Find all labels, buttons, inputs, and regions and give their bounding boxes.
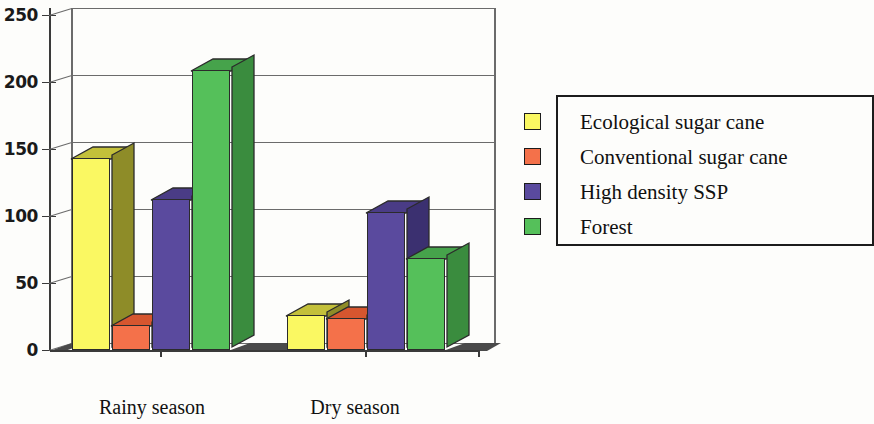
legend-swatch-column <box>524 95 554 246</box>
plot-right-edge <box>494 8 496 343</box>
x-axis-line <box>50 350 480 352</box>
x-tick-end <box>478 350 480 357</box>
bar-rainy-conventional-sugar-cane[interactable] <box>112 325 150 350</box>
legend-swatch-forest <box>524 218 541 235</box>
bar-front-face <box>367 212 405 350</box>
x-tick-dry <box>365 350 367 357</box>
depth-connector-150 <box>49 142 71 150</box>
bar-rainy-high-density-ssp[interactable] <box>152 199 190 350</box>
x-axis-label-dry-season: Dry season <box>310 396 399 419</box>
bar-rainy-forest[interactable] <box>192 70 230 350</box>
plot-area: 250 200 150 100 50 0 <box>0 0 520 424</box>
legend-labels: Ecological sugar cane Conventional sugar… <box>556 95 874 246</box>
bar-front-face <box>287 315 325 350</box>
depth-connector-250 <box>49 8 71 16</box>
legend-label-conventional-sugar-cane: Conventional sugar cane <box>580 145 788 170</box>
y-tick-label-0: 0 <box>27 340 38 360</box>
legend-label-forest: Forest <box>580 215 633 240</box>
y-tick-label-50: 50 <box>15 273 38 293</box>
bar-front-face <box>327 318 365 350</box>
legend-swatch-high-density-ssp <box>524 183 541 200</box>
y-tick-label-200: 200 <box>4 72 38 92</box>
y-tick-label-150: 150 <box>4 139 38 159</box>
y-axis-labels: 250 200 150 100 50 0 <box>0 0 38 424</box>
legend-swatch-conventional-sugar-cane <box>524 148 541 165</box>
bar-front-face <box>112 325 150 350</box>
x-tick-rainy <box>160 350 162 357</box>
legend-label-ecological-sugar-cane: Ecological sugar cane <box>580 110 764 135</box>
legend-swatch-ecological-sugar-cane <box>524 113 541 130</box>
gridline-250 <box>71 8 496 9</box>
bar-front-face <box>192 70 230 350</box>
legend-label-high-density-ssp: High density SSP <box>580 180 728 205</box>
y-tick-label-250: 250 <box>4 5 38 25</box>
bar-front-face <box>407 258 445 350</box>
x-axis-label-rainy-season: Rainy season <box>99 396 205 419</box>
depth-connector-50 <box>49 276 71 284</box>
bar-front-face <box>72 158 110 350</box>
depth-connector-100 <box>49 209 71 217</box>
bar-front-face <box>152 199 190 350</box>
bar-dry-forest[interactable] <box>407 258 445 350</box>
y-tick-label-100: 100 <box>4 206 38 226</box>
chart-figure: 250 200 150 100 50 0 <box>0 0 874 424</box>
depth-connector-200 <box>49 75 71 83</box>
bar-rainy-ecological-sugar-cane[interactable] <box>72 158 110 350</box>
y-axis-outer-line <box>49 8 51 351</box>
bar-dry-high-density-ssp[interactable] <box>367 212 405 350</box>
bar-dry-conventional-sugar-cane[interactable] <box>327 318 365 350</box>
gridline-200 <box>71 75 496 76</box>
bar-dry-ecological-sugar-cane[interactable] <box>287 315 325 350</box>
